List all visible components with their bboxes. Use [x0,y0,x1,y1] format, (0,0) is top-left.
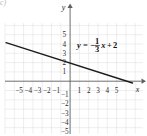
y-tick-label: 5 [62,31,66,39]
y-axis-tick-labels: 5 4 3 2 1 −1 −2 −3 −4 −5 [61,31,69,136]
coordinate-plane: −5 −4 −3 −2 −1 1 2 3 4 5 5 4 3 2 1 −1 −2… [0,0,147,136]
equation-lhs: y [76,41,81,50]
y-axis-label: y [61,3,66,12]
y-tick-label: −2 [61,100,69,108]
x-tick-label: −3 [34,87,42,95]
x-tick-label: 2 [87,87,91,95]
equation-annotation: y = − 1 3 x + 2 [76,37,117,53]
equation-intercept: 2 [113,41,117,50]
y-tick-label: −5 [61,128,69,136]
x-tick-label: 4 [106,87,110,95]
equation-variable: x [100,41,105,50]
x-tick-label: −5 [15,87,23,95]
y-tick-label: −1 [61,91,69,99]
x-tick-label: 3 [96,87,100,95]
x-tick-label: −1 [52,87,60,95]
x-tick-label: −2 [43,87,51,95]
y-tick-label: 3 [62,50,66,58]
y-tick-label: 1 [62,68,66,76]
equation-plus: + [107,41,112,50]
equation-equals: = [83,41,88,50]
y-tick-label: −4 [61,119,69,127]
x-tick-label: 1 [78,87,82,95]
equation-fraction-denominator: 3 [95,45,99,54]
x-axis-label: x [135,85,140,94]
y-tick-label: −3 [61,110,69,118]
x-tick-label: 5 [115,87,119,95]
grid-lines [5,23,143,134]
graph-figure: c) [0,0,147,136]
y-tick-label: 4 [62,41,66,49]
x-tick-label: −4 [24,87,32,95]
